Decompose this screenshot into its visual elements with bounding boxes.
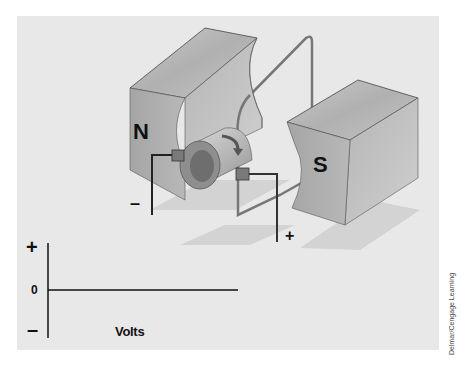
negative-terminal-label: – — [130, 193, 140, 214]
graph-positive-label: + — [26, 236, 38, 259]
generator-illustration — [0, 0, 465, 365]
graph-zero-label: 0 — [31, 283, 38, 297]
image-credit: Delmar/Cengage Learning — [448, 273, 455, 355]
south-magnet — [287, 80, 418, 225]
south-pole-label: S — [313, 152, 328, 178]
brush-left — [172, 150, 184, 161]
brush-right — [236, 168, 249, 180]
positive-terminal-label: + — [285, 227, 294, 245]
graph-x-label: Volts — [115, 324, 144, 339]
north-pole-label: N — [133, 119, 149, 145]
graph-negative-label: – — [27, 318, 38, 341]
armature-wire-back — [250, 37, 312, 118]
